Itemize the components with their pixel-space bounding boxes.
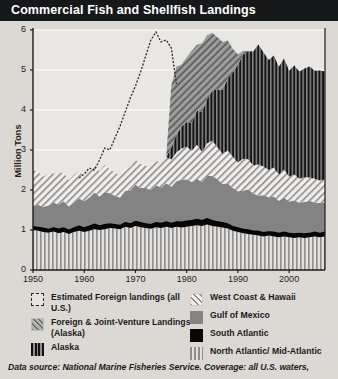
y-tick-label: 5 xyxy=(10,64,26,74)
x-tick-label: 2000 xyxy=(272,274,306,284)
legend-column-right: West Coast & HawaiiGulf of MexicoSouth A… xyxy=(190,292,338,364)
legend-item-foreign-joint-venture[interactable]: Foreign & Joint-Venture Landings (Alaska… xyxy=(31,317,191,338)
legend-swatch-south-atlantic-icon xyxy=(190,329,203,342)
legend-label: West Coast & Hawaii xyxy=(210,292,296,303)
legend-column-left: Estimated Foreign landings (all U.S.)For… xyxy=(31,292,191,360)
y-tick-label: 1 xyxy=(10,224,26,234)
legend-label: Estimated Foreign landings (all U.S.) xyxy=(51,292,191,313)
legend-label: North Atlantic/ Mid-Atlantic xyxy=(210,346,322,357)
legend-swatch-estimated-foreign-icon xyxy=(31,293,44,306)
legend-item-estimated-foreign[interactable]: Estimated Foreign landings (all U.S.) xyxy=(31,292,191,313)
legend-item-gulf-of-mexico[interactable]: Gulf of Mexico xyxy=(190,310,338,324)
page-title: Commercial Fish and Shellfish Landings xyxy=(11,3,256,17)
x-tick-label: 1970 xyxy=(118,274,152,284)
x-tick-label: 1990 xyxy=(221,274,255,284)
legend-item-west-coast-hawaii[interactable]: West Coast & Hawaii xyxy=(190,292,338,306)
legend-swatch-gulf-of-mexico-icon xyxy=(190,311,203,324)
legend-item-north-atlantic-mid-atlantic[interactable]: North Atlantic/ Mid-Atlantic xyxy=(190,346,338,360)
x-tick-label: 1960 xyxy=(67,274,101,284)
y-tick-label: 3 xyxy=(10,144,26,154)
y-tick-label: 0 xyxy=(10,264,26,274)
legend-label: South Atlantic xyxy=(210,328,269,339)
chart-page: Commercial Fish and Shellfish Landings M… xyxy=(0,0,338,379)
legend-label: Foreign & Joint-Venture Landings (Alaska… xyxy=(51,317,191,338)
legend-item-alaska[interactable]: Alaska xyxy=(31,342,191,356)
legend-swatch-foreign-joint-venture-icon xyxy=(31,318,44,331)
chart-legend: Estimated Foreign landings (all U.S.)For… xyxy=(0,292,338,360)
title-bar: Commercial Fish and Shellfish Landings xyxy=(0,0,338,21)
legend-label: Alaska xyxy=(51,342,79,353)
legend-swatch-north-atlantic-mid-atlantic-icon xyxy=(190,347,203,360)
x-tick-label: 1980 xyxy=(170,274,204,284)
y-tick-label: 2 xyxy=(10,184,26,194)
y-tick-label: 6 xyxy=(10,24,26,34)
legend-item-south-atlantic[interactable]: South Atlantic xyxy=(190,328,338,342)
x-tick-label: 1950 xyxy=(16,274,50,284)
chart-area: Million Tons 0123456 1950196019701980199… xyxy=(0,21,338,289)
legend-label: Gulf of Mexico xyxy=(210,310,270,321)
legend-swatch-alaska-icon xyxy=(31,343,44,356)
stacked-area-chart xyxy=(0,21,338,289)
legend-swatch-west-coast-hawaii-icon xyxy=(190,293,203,306)
y-tick-label: 4 xyxy=(10,104,26,114)
data-source-note: Data source: National Marine Fisheries S… xyxy=(8,362,338,372)
